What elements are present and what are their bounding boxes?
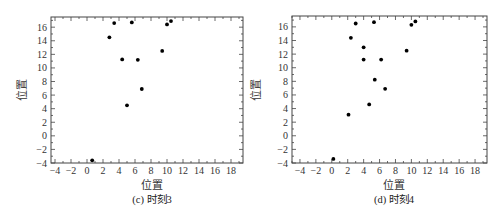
plot-frame [51,17,243,163]
y-tick-label: 10 [37,62,47,73]
y-tick-label: 8 [42,76,47,87]
y-tick-label: 12 [37,49,47,60]
data-point [331,157,335,161]
x-tick-label: 16 [454,165,464,176]
y-tick-label: 8 [283,76,288,87]
y-tick-label: 12 [278,49,288,60]
x-tick-label: 6 [133,165,138,176]
x-tick-label: 10 [162,165,172,176]
data-point [367,103,371,107]
x-tick-label: 14 [438,165,448,176]
x-axis-label-d: 位置 [383,178,405,191]
scatter-panel-d: −4−2024681012141618−4−20246810121416 [277,16,487,176]
y-tick-label: 14 [278,35,288,46]
data-point [108,35,112,39]
x-tick-label: 12 [422,165,432,176]
y-tick-label: 0 [42,130,47,141]
data-point [362,45,366,49]
y-tick-label: 10 [278,62,288,73]
y-tick-label: 4 [283,103,288,114]
data-point [112,21,116,25]
x-tick-label: −4 [295,165,306,176]
plot-frame [292,16,487,163]
data-point [354,22,358,26]
x-tick-label: 0 [329,165,334,176]
data-point [130,21,134,25]
y-axis-label-c: 位置 [15,79,28,101]
data-point [372,20,376,24]
data-point [362,58,366,62]
x-tick-label: −4 [50,165,61,176]
y-tick-label: −4 [277,158,288,169]
data-points [331,20,417,161]
y-tick-label: 2 [283,117,288,128]
y-tick-label: 16 [278,21,288,32]
scatter-panel-c: −4−2024681012141618−4−20246810121416 [36,17,243,176]
data-point [136,58,140,62]
axis-ticks [51,17,243,163]
data-point [383,87,387,91]
data-point [347,113,351,117]
x-tick-label: 18 [226,165,236,176]
data-point [379,58,383,62]
x-tick-label: 14 [194,165,204,176]
x-tick-label: 2 [101,165,106,176]
axis-ticks [292,16,487,163]
data-point [90,158,94,162]
y-tick-label: 6 [283,89,288,100]
y-tick-label: −4 [36,158,47,169]
x-tick-label: −2 [66,165,77,176]
x-tick-label: 8 [149,165,154,176]
x-tick-label: 8 [393,165,398,176]
x-tick-label: 16 [210,165,220,176]
x-tick-label: 2 [345,165,350,176]
y-tick-label: 4 [42,103,47,114]
data-points [90,19,173,162]
data-point [349,36,353,40]
data-point [165,23,169,27]
figure: −4−2024681012141618−4−20246810121416 −4−… [0,0,502,219]
data-point [405,49,409,53]
x-tick-label: 0 [85,165,90,176]
y-tick-label: −2 [36,144,47,155]
y-tick-label: 6 [42,90,47,101]
x-tick-label: 12 [178,165,188,176]
y-tick-label: 0 [283,130,288,141]
x-tick-label: 10 [406,165,416,176]
x-axis-label-c: 位置 [141,178,163,191]
data-point [160,49,164,53]
x-tick-label: 6 [377,165,382,176]
y-tick-label: −2 [277,144,288,155]
caption-d: (d) 时刻4 [374,193,415,206]
y-tick-label: 16 [37,22,47,33]
data-point [169,19,173,23]
data-point [373,78,377,82]
x-tick-label: 4 [117,165,122,176]
data-point [125,103,129,107]
x-tick-label: −2 [311,165,322,176]
data-point [120,58,124,62]
data-point [140,87,144,91]
x-tick-label: 4 [361,165,366,176]
data-point [409,23,413,27]
data-point [413,20,417,24]
x-tick-label: 18 [470,165,480,176]
y-tick-label: 14 [37,35,47,46]
caption-c: (c) 时刻3 [132,193,172,206]
y-tick-label: 2 [42,117,47,128]
y-axis-label-d: 位置 [249,79,262,101]
